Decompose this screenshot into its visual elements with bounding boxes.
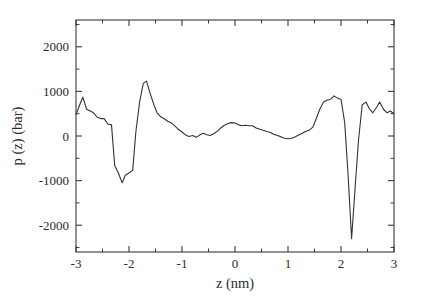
pressure-curve	[76, 81, 394, 239]
x-tick-label: 2	[338, 256, 345, 271]
pressure-profile-figure: -3-2-10123 -2000-1000010002000 z (nm) p …	[0, 0, 422, 299]
y-tick-label: -2000	[39, 218, 69, 233]
x-tick-label: -2	[124, 256, 135, 271]
x-tick-label: 0	[232, 256, 239, 271]
x-tick-label: -1	[177, 256, 188, 271]
y-tick-label: 2000	[43, 39, 69, 54]
y-tick-label: 0	[63, 129, 70, 144]
x-axis-minor-ticks	[103, 20, 368, 252]
x-axis-tick-labels: -3-2-10123	[71, 256, 398, 271]
x-tick-label: -3	[71, 256, 82, 271]
y-axis-title: p (z) (bar)	[9, 106, 26, 165]
y-tick-label: -1000	[39, 173, 69, 188]
x-tick-label: 1	[285, 256, 292, 271]
plot-frame	[76, 20, 394, 252]
plot-canvas: -3-2-10123 -2000-1000010002000 z (nm) p …	[0, 0, 422, 299]
y-axis-minor-ticks	[76, 24, 394, 247]
x-axis-title: z (nm)	[216, 275, 254, 292]
y-axis-tick-labels: -2000-1000010002000	[39, 39, 69, 232]
x-tick-label: 3	[391, 256, 398, 271]
x-axis-major-ticks	[76, 20, 394, 252]
y-tick-label: 1000	[43, 84, 69, 99]
y-axis-major-ticks	[76, 47, 394, 225]
